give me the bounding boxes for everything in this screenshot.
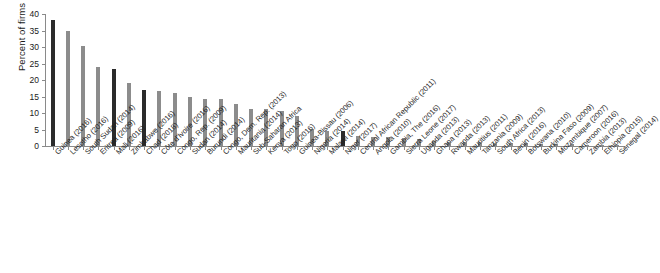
y-tick-mark	[42, 146, 45, 147]
y-tick-label: 30	[9, 42, 39, 52]
y-tick-label: 0	[9, 141, 39, 151]
y-tick-label: 35	[9, 26, 39, 36]
bar	[51, 20, 55, 146]
bar-slot	[45, 14, 60, 146]
y-tick-label: 40	[9, 9, 39, 19]
y-tick-label: 20	[9, 75, 39, 85]
x-axis-labels: Guinea (2016)Lesotho (2016)South Sudan (…	[45, 150, 625, 270]
y-tick-label: 10	[9, 108, 39, 118]
bar	[66, 31, 70, 146]
bar-slot	[60, 14, 75, 146]
y-tick-label: 5	[9, 125, 39, 135]
y-tick-label: 25	[9, 59, 39, 69]
y-tick-label: 15	[9, 92, 39, 102]
